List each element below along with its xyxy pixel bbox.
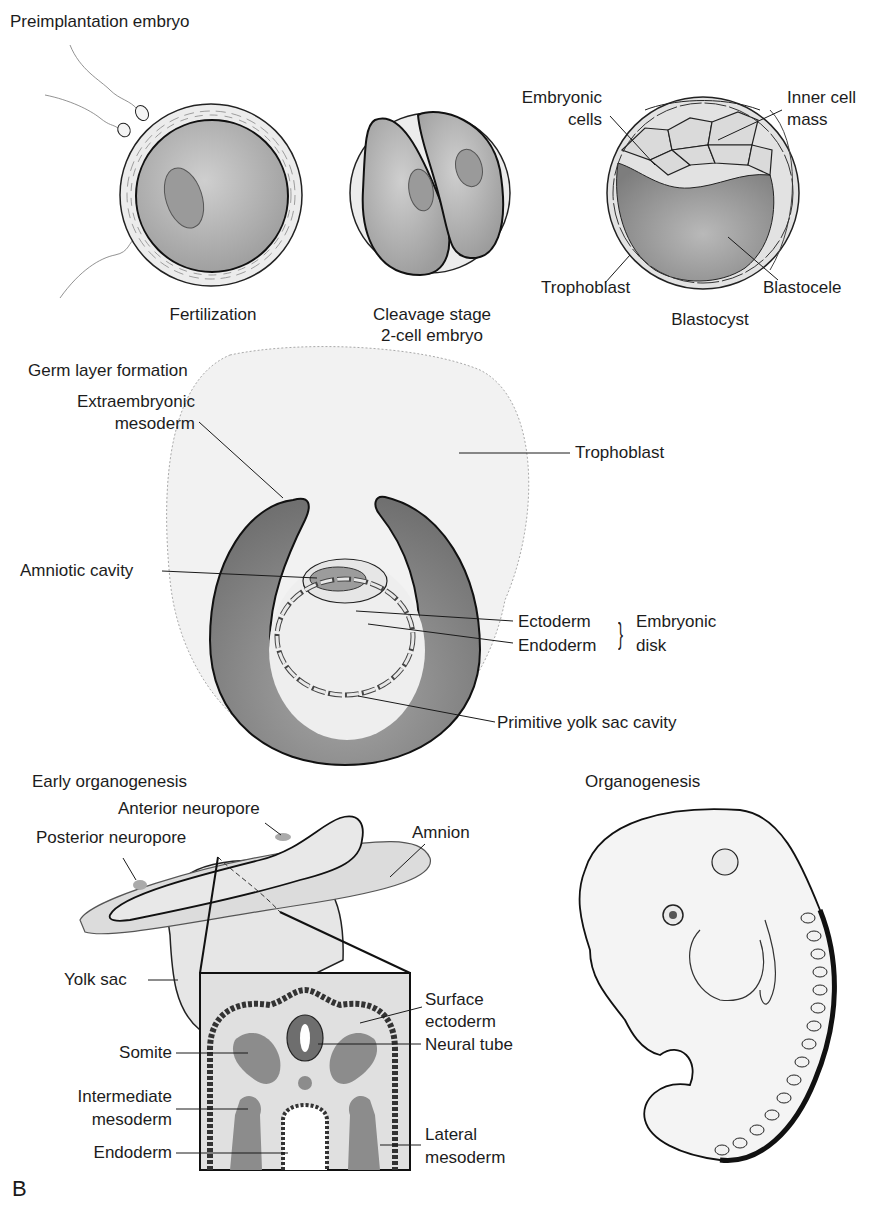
label-trophoblast-germ: Trophoblast (575, 443, 664, 463)
label-inner-cell-mass-line1: Inner cell (787, 88, 856, 108)
label-yolk-sac: Yolk sac (64, 970, 127, 990)
label-intermediate-mesoderm-line1: Intermediate (30, 1087, 172, 1107)
section-title-germ-layer: Germ layer formation (28, 361, 188, 381)
label-amnion: Amnion (412, 823, 470, 843)
label-extraembryonic-line1: Extraembryonic (30, 392, 195, 412)
label-extraembryonic-line2: mesoderm (30, 414, 195, 434)
embryonic-disk-brace: } (618, 611, 623, 657)
label-lateral-mesoderm-line2: mesoderm (425, 1148, 505, 1168)
label-inner-cell-mass-line2: mass (787, 110, 828, 130)
label-embryonic-cells-line2: cells (490, 110, 602, 130)
organogenesis-illustration (580, 809, 835, 1160)
caption-cleavage-line1: Cleavage stage (362, 305, 502, 325)
label-endoderm-germ: Endoderm (518, 636, 596, 656)
label-surface-ectoderm-line1: Surface (425, 990, 484, 1010)
label-amniotic-cavity: Amniotic cavity (20, 561, 133, 581)
label-trophoblast-blastocyst: Trophoblast (541, 278, 630, 298)
caption-blastocyst: Blastocyst (650, 310, 770, 330)
panel-letter: B (12, 1176, 27, 1202)
label-ectoderm-germ: Ectoderm (518, 612, 591, 632)
label-posterior-neuropore: Posterior neuropore (36, 828, 186, 848)
label-neural-tube: Neural tube (425, 1035, 513, 1055)
caption-fertilization: Fertilization (150, 305, 276, 325)
label-embryonic-cells-line1: Embryonic (490, 88, 602, 108)
label-embryonic-disk-line2: disk (636, 636, 666, 656)
section-title-early-organogenesis: Early organogenesis (32, 772, 187, 792)
label-embryonic-disk-line1: Embryonic (636, 612, 716, 632)
section-title-organogenesis: Organogenesis (585, 772, 700, 792)
fertilization-illustration (45, 45, 302, 298)
label-intermediate-mesoderm-line2: mesoderm (30, 1110, 172, 1130)
blastocyst-illustration (607, 97, 799, 289)
label-surface-ectoderm-line2: ectoderm (425, 1012, 496, 1032)
section-title-preimplantation: Preimplantation embryo (10, 12, 190, 32)
label-anterior-neuropore: Anterior neuropore (118, 799, 260, 819)
cleavage-illustration (350, 112, 510, 275)
label-blastocele: Blastocele (763, 278, 841, 298)
label-lateral-mesoderm-line1: Lateral (425, 1125, 477, 1145)
caption-cleavage-line2: 2-cell embryo (362, 326, 502, 346)
germ-layer-illustration (167, 347, 529, 765)
label-somite: Somite (60, 1043, 172, 1063)
label-primitive-yolk-sac: Primitive yolk sac cavity (497, 713, 676, 733)
label-endoderm-early: Endoderm (30, 1143, 172, 1163)
